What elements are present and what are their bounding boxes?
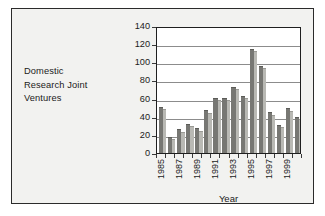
x-axis-tick-mark <box>283 154 284 158</box>
chart-bar <box>186 125 192 153</box>
chart-bar-face <box>204 110 208 153</box>
chart-bar <box>168 138 174 153</box>
x-axis-tick-mark <box>165 154 166 158</box>
y-axis-tick-label: 80 <box>122 77 150 86</box>
y-axis-tick-label: 100 <box>122 59 150 68</box>
x-axis-tick-mark <box>210 154 211 158</box>
figure-frame: Domestic Research Joint Ventures 0204060… <box>11 8 314 204</box>
chart-bar-face <box>250 49 254 153</box>
x-axis-tick-mark <box>219 154 220 158</box>
chart-bar-face <box>168 137 172 153</box>
chart-bar-face <box>159 107 163 153</box>
chart-bar-side <box>199 131 202 153</box>
x-axis-tick-label: 1985 <box>156 159 166 179</box>
chart-bar-face <box>259 66 263 153</box>
x-axis-tick-mark <box>247 154 248 158</box>
x-axis-tick-mark <box>192 154 193 158</box>
chart-bar-face <box>268 112 272 153</box>
chart-bar-side <box>218 100 221 153</box>
chart-bar-side <box>254 51 257 153</box>
chart-bar <box>268 113 274 153</box>
x-axis-tick-labels: 19851987198919911993199519971999 <box>156 159 301 193</box>
x-axis-tick-mark <box>156 154 157 158</box>
x-axis-tick-mark <box>256 154 257 158</box>
chart-bar-side <box>190 126 193 153</box>
chart-bar <box>295 118 301 153</box>
chart-bar-face <box>241 96 245 153</box>
y-axis-tick-label: 140 <box>122 22 150 31</box>
y-axis-tick-label: 20 <box>122 131 150 140</box>
chart-plot-area <box>156 27 301 154</box>
chart-bar-face <box>295 117 299 153</box>
x-axis-tick-label: 1997 <box>264 159 274 179</box>
chart-plot-wrapper: 020406080100120140 198519871989199119931… <box>122 21 302 199</box>
chart-bar <box>177 130 183 153</box>
y-axis-tick-labels: 020406080100120140 <box>122 27 150 154</box>
chart-side-label-line-1: Domestic <box>24 65 106 79</box>
chart-bar-side <box>290 111 293 153</box>
chart-bar-face <box>231 87 235 153</box>
x-axis-tick-mark <box>238 154 239 158</box>
x-axis-tick-mark <box>265 154 266 158</box>
chart-side-label-line-3: Ventures <box>24 92 106 106</box>
chart-bars <box>157 28 300 153</box>
chart-bar <box>286 109 292 153</box>
chart-bar-side <box>236 89 239 153</box>
chart-bar-face <box>277 125 281 153</box>
chart-bar <box>231 88 237 153</box>
x-axis-tick-mark <box>292 154 293 158</box>
chart-bar-side <box>208 113 211 153</box>
chart-bar <box>159 108 165 153</box>
chart-bar-side <box>299 119 301 153</box>
x-axis-title: Year <box>156 193 301 204</box>
x-axis-tick-label: 1987 <box>174 159 184 179</box>
chart-bar <box>195 129 201 153</box>
chart-bar-face <box>177 129 181 153</box>
chart-bar <box>259 67 265 153</box>
x-axis-tick-label: 1993 <box>228 159 238 179</box>
y-axis-tick-label: 60 <box>122 95 150 104</box>
chart-bar-side <box>245 98 248 153</box>
x-axis-tick-label: 1991 <box>210 159 220 179</box>
chart-bar <box>250 50 256 153</box>
y-axis-tick-label: 40 <box>122 113 150 122</box>
x-axis-tick-mark <box>183 154 184 158</box>
chart-bar-face <box>195 128 199 153</box>
chart-bar-side <box>172 139 175 153</box>
chart-bar <box>222 99 228 153</box>
chart-bar-side <box>181 132 184 153</box>
y-axis-tick-label: 0 <box>122 149 150 158</box>
x-axis-tick-label: 1989 <box>192 159 202 179</box>
x-axis-tick-label: 1999 <box>282 159 292 179</box>
y-axis-tick-label: 120 <box>122 41 150 50</box>
chart-bar <box>277 126 283 153</box>
x-axis-tick-mark <box>229 154 230 158</box>
x-axis-tick-label: 1995 <box>246 159 256 179</box>
chart-bar <box>204 111 210 153</box>
chart-bar-side <box>163 109 166 153</box>
chart-bar-face <box>222 98 226 153</box>
chart-bar-face <box>286 108 290 153</box>
chart-bar-side <box>272 115 275 153</box>
x-axis-tick-mark <box>201 154 202 158</box>
chart-bar-side <box>281 127 284 153</box>
chart-bar <box>241 97 247 153</box>
chart-bar-face <box>213 98 217 153</box>
x-axis-tick-mark <box>274 154 275 158</box>
chart-bar <box>213 99 219 153</box>
chart-bar-face <box>186 124 190 153</box>
chart-bar-side <box>263 68 266 153</box>
x-axis-tick-mark <box>174 154 175 158</box>
chart-side-label: Domestic Research Joint Ventures <box>24 65 106 106</box>
chart-bar-side <box>227 100 230 153</box>
x-axis-tick-mark <box>301 154 302 158</box>
chart-side-label-line-2: Research Joint <box>24 79 106 93</box>
